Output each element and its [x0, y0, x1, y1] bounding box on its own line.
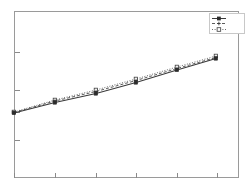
data-point-marker	[175, 68, 179, 72]
data-point-marker	[134, 81, 138, 85]
open-square-icon	[212, 27, 226, 32]
cross-icon	[212, 21, 226, 26]
legend-entry-1	[212, 16, 242, 21]
plot-background	[14, 11, 238, 177]
data-point-marker	[214, 57, 218, 61]
filled-square-icon	[212, 16, 226, 21]
chart-figure	[0, 0, 249, 189]
data-point-marker	[94, 92, 98, 96]
data-point-marker	[12, 111, 16, 115]
chart-legend	[209, 13, 245, 34]
legend-entry-2	[212, 21, 242, 26]
legend-entry-3	[212, 27, 242, 32]
data-point-marker	[53, 101, 57, 105]
